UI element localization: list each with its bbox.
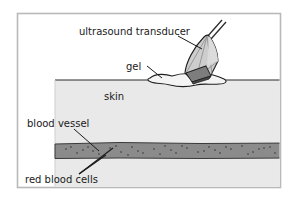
label-skin: skin [104,91,124,102]
figure-root: ultrasound transducer gel skin blood ves… [0,0,296,200]
blood-vessel-band [55,143,296,159]
ultrasound-diagram: ultrasound transducer gel skin blood ves… [0,0,296,200]
skin-layer [55,80,296,188]
label-blood-vessel: blood vessel [27,118,89,129]
label-red-blood-cells: red blood cells [25,174,98,185]
label-gel: gel [126,61,141,72]
label-ultrasound-transducer: ultrasound transducer [79,26,191,37]
